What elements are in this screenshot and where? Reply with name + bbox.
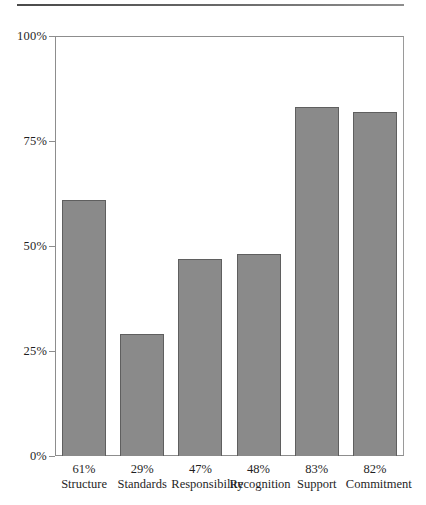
bar-value-label: 83% xyxy=(288,462,346,477)
x-axis-label-group: 29%Standards xyxy=(113,462,171,492)
bar-category-label: Commitment xyxy=(346,477,404,492)
bar-category-label: Support xyxy=(288,477,346,492)
bar-value-label: 82% xyxy=(346,462,404,477)
x-axis-label-group: 61%Structure xyxy=(55,462,113,492)
x-axis-labels: 61%Structure29%Standards47%Responsibilit… xyxy=(0,0,426,505)
bar-value-label: 29% xyxy=(113,462,171,477)
x-axis-label-group: 82%Commitment xyxy=(346,462,404,492)
x-axis-label-group: 47%Responsibility xyxy=(171,462,229,492)
bar-category-label: Responsibility xyxy=(171,477,229,492)
bar-value-label: 48% xyxy=(230,462,288,477)
x-axis-label-group: 48%Recognition xyxy=(230,462,288,492)
bar-category-label: Standards xyxy=(113,477,171,492)
bar-chart: 0%25%50%75%100% 61%Structure29%Standards… xyxy=(0,0,426,505)
bar-category-label: Structure xyxy=(55,477,113,492)
bar-value-label: 61% xyxy=(55,462,113,477)
bar-category-label: Recognition xyxy=(230,477,288,492)
x-axis-label-group: 83%Support xyxy=(288,462,346,492)
bar-value-label: 47% xyxy=(171,462,229,477)
